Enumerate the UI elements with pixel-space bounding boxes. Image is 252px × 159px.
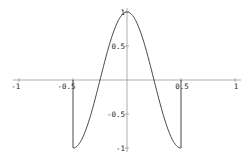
y-tick-label: -1 [116,144,125,153]
x-tick-label: -1 [11,82,20,91]
y-tick-label: -0.5 [107,110,125,119]
y-ticks: 10.5-0.5-1 [107,8,129,153]
plot-area: -1-0.50.51 10.5-0.5-1 [0,0,252,159]
x-tick-label: 0.5 [175,82,189,91]
y-tick-label: 0.5 [111,42,125,51]
axes [13,8,241,152]
x-tick-label: 1 [234,82,239,91]
